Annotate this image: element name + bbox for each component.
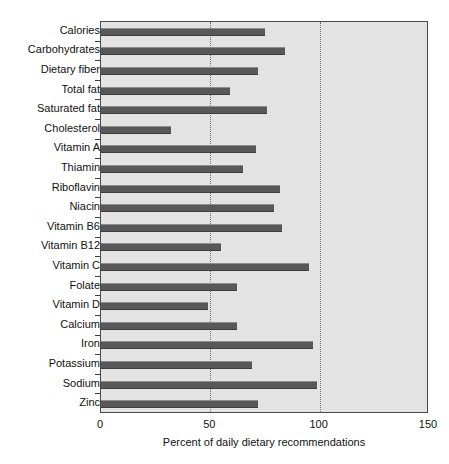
bar-row (101, 23, 427, 41)
bar (101, 224, 282, 232)
bar-row (101, 258, 427, 276)
y-axis-label: Riboflavin (4, 182, 100, 193)
bar-row (101, 238, 427, 256)
y-axis-label: Calcium (4, 319, 100, 330)
y-axis-label: Zinc (4, 397, 100, 408)
bar (101, 106, 267, 114)
y-axis-label: Sodium (4, 378, 100, 389)
y-axis-label: Folate (4, 280, 100, 291)
y-axis-label: Vitamin D (4, 299, 100, 310)
bar-row (101, 297, 427, 315)
bar (101, 87, 230, 95)
bar (101, 381, 317, 389)
bar (101, 47, 285, 55)
bar (101, 67, 258, 75)
bar (101, 263, 309, 271)
bar (101, 145, 256, 153)
bar-row (101, 101, 427, 119)
bar (101, 322, 237, 330)
bar (101, 243, 221, 251)
bar-row (101, 160, 427, 178)
bar (101, 341, 313, 349)
y-axis-label: Cholesterol (4, 123, 100, 134)
bar-row (101, 62, 427, 80)
bar (101, 28, 265, 36)
x-axis-tick-label: 0 (97, 418, 103, 430)
bar-row (101, 121, 427, 139)
bar (101, 361, 252, 369)
y-axis-label: Vitamin A (4, 142, 100, 153)
bar-row (101, 356, 427, 374)
bar (101, 400, 258, 408)
bar-row (101, 278, 427, 296)
y-axis-label: Thiamin (4, 162, 100, 173)
bar-row (101, 336, 427, 354)
bar-row (101, 180, 427, 198)
y-axis-label: Calories (4, 25, 100, 36)
y-axis-label: Total fat (4, 84, 100, 95)
bar-row (101, 395, 427, 413)
bar-row (101, 199, 427, 217)
x-axis-tick-label: 150 (419, 418, 437, 430)
bar-row (101, 376, 427, 394)
bar-row (101, 219, 427, 237)
bar-row (101, 42, 427, 60)
bar (101, 302, 208, 310)
y-axis-label: Vitamin C (4, 260, 100, 271)
y-axis-label: Vitamin B6 (4, 221, 100, 232)
y-axis-label: Saturated fat (4, 103, 100, 114)
y-axis-label: Carbohydrates (4, 44, 100, 55)
y-axis-label: Niacin (4, 201, 100, 212)
y-axis-label: Vitamin B12 (4, 240, 100, 251)
bar (101, 165, 243, 173)
bar (101, 204, 274, 212)
bar (101, 185, 280, 193)
y-axis-label: Potassium (4, 358, 100, 369)
bar (101, 126, 171, 134)
bar-row (101, 82, 427, 100)
plot-area (100, 21, 428, 413)
y-axis: CaloriesCarbohydratesDietary fiberTotal … (0, 21, 100, 413)
bar (101, 283, 237, 291)
x-axis-tick-label: 100 (309, 418, 327, 430)
y-axis-label: Iron (4, 338, 100, 349)
bar-row (101, 317, 427, 335)
x-axis-title: Percent of daily dietary recommendations (100, 436, 428, 449)
bar-row (101, 140, 427, 158)
nutrition-bar-chart: CaloriesCarbohydratesDietary fiberTotal … (0, 0, 449, 464)
x-axis-tick-label: 50 (203, 418, 215, 430)
y-axis-label: Dietary fiber (4, 64, 100, 75)
